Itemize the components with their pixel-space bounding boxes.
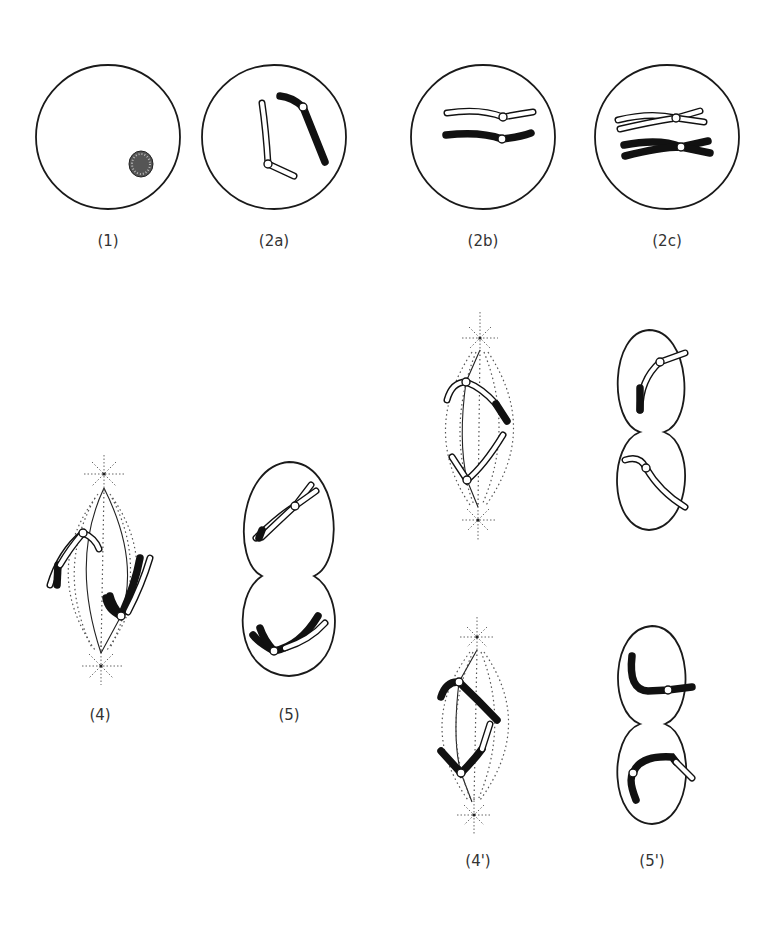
panel-label-4: (4): [89, 706, 110, 724]
meiosis-diagram: [0, 0, 771, 926]
panel-5p-upper-dividing-cell: [617, 330, 685, 530]
panel-4-spindle: [50, 455, 150, 685]
panel-label-2a: (2a): [259, 232, 289, 250]
panel-label-2c: (2c): [652, 232, 682, 250]
panel-5p-lower-dividing-cell: [617, 626, 692, 824]
panel-2c-cell: [595, 65, 739, 209]
panel-label-2b: (2b): [468, 232, 499, 250]
panel-1-cell: [36, 65, 180, 209]
panel-label-1: (1): [97, 232, 118, 250]
panel-label-5p: (5'): [639, 852, 664, 870]
panel-4p-upper-spindle: [445, 312, 513, 540]
panel-label-4p: (4'): [465, 852, 490, 870]
panel-4p-lower-spindle: [441, 617, 509, 834]
panel-2a-cell: [202, 65, 346, 209]
panel-5-dividing-cell: [243, 462, 335, 676]
panel-label-5: (5): [278, 706, 299, 724]
panel-2b-cell: [411, 65, 555, 209]
